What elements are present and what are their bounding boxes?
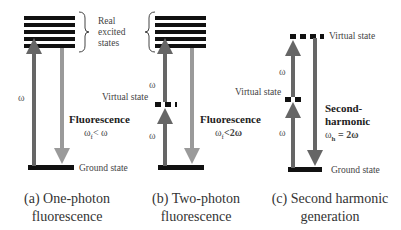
brace-icon [145, 12, 155, 52]
brace-icon [79, 12, 89, 52]
arrows-layer [0, 0, 401, 230]
